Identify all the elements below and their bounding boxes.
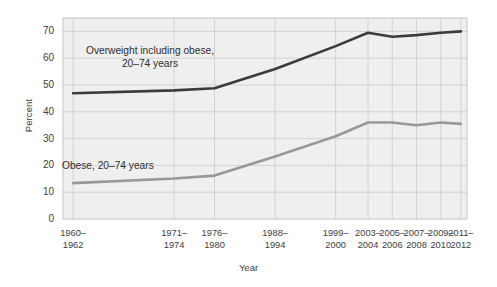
x-axis-tick-label: 1976–1980 <box>191 228 239 251</box>
x-axis-tick-line: 2011– <box>437 228 485 240</box>
x-axis-tick-label: 2011–2012 <box>437 228 485 251</box>
series-label-obese: Obese, 20–74 years <box>62 160 192 173</box>
x-axis-tick-line: 1994 <box>251 240 299 252</box>
x-axis-tick-line: 1962 <box>49 240 97 252</box>
x-axis-tick-line: 1976– <box>191 228 239 240</box>
y-axis-tick-label: 0 <box>28 214 54 224</box>
y-axis-tick-label: 40 <box>28 107 54 117</box>
x-axis-tick-line: 1980 <box>191 240 239 252</box>
y-axis-tick-label: 10 <box>28 187 54 197</box>
x-axis-tick-line: 1988– <box>251 228 299 240</box>
series-label-overweight: Overweight including obese,20–74 years <box>70 45 230 70</box>
x-axis-tick-line: 2012 <box>437 240 485 252</box>
y-axis-tick-label: 60 <box>28 53 54 63</box>
series-label-line: Obese, 20–74 years <box>62 160 192 173</box>
chart-figure: Percent 010203040506070 1960–19621971–19… <box>0 0 497 287</box>
x-axis-title: Year <box>0 262 497 273</box>
y-axis-tick-label: 20 <box>28 160 54 170</box>
x-axis-tick-label: 1988–1994 <box>251 228 299 251</box>
x-axis-tick-label: 1960–1962 <box>49 228 97 251</box>
y-axis-tick-label: 70 <box>28 26 54 36</box>
y-axis-tick-label: 50 <box>28 80 54 90</box>
series-label-line: 20–74 years <box>70 58 230 71</box>
series-label-line: Overweight including obese, <box>70 45 230 58</box>
y-axis-tick-label: 30 <box>28 134 54 144</box>
x-axis-tick-line: 1960– <box>49 228 97 240</box>
